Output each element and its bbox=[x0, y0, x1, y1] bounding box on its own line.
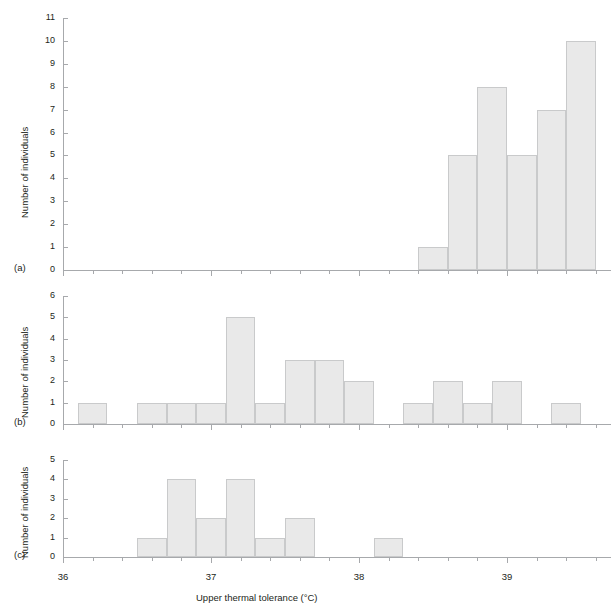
y-axis-tick bbox=[64, 499, 68, 500]
histogram-bar bbox=[285, 518, 315, 557]
x-axis-tick-label: 38 bbox=[347, 572, 371, 582]
x-axis-minor-tick bbox=[537, 425, 538, 428]
y-axis-tick-label: 5 bbox=[33, 455, 55, 464]
x-axis-minor-tick bbox=[566, 271, 567, 274]
x-axis-minor-tick bbox=[270, 558, 271, 561]
histogram-bar bbox=[137, 538, 167, 557]
histogram-bar bbox=[374, 538, 404, 557]
x-axis-minor-tick bbox=[93, 558, 94, 561]
histogram-bar bbox=[551, 403, 581, 424]
x-axis-major-tick bbox=[507, 425, 508, 430]
y-axis-tick-label: 3 bbox=[33, 494, 55, 503]
x-axis-minor-tick bbox=[566, 425, 567, 428]
y-axis-tick bbox=[64, 518, 68, 519]
histogram-bar bbox=[255, 538, 285, 557]
histogram-bar bbox=[463, 403, 493, 424]
histogram-bar bbox=[226, 479, 256, 557]
x-axis-title: Upper thermal tolerance (°C) bbox=[196, 592, 318, 603]
x-axis-minor-tick bbox=[300, 558, 301, 561]
histogram-bar bbox=[167, 479, 197, 557]
x-axis-minor-tick bbox=[477, 271, 478, 274]
x-axis-minor-tick bbox=[181, 558, 182, 561]
x-axis-minor-tick bbox=[122, 558, 123, 561]
y-axis-tick-label: 0 bbox=[33, 552, 55, 561]
y-axis-tick bbox=[64, 538, 68, 539]
x-axis-minor-tick bbox=[389, 558, 390, 561]
x-axis-major-tick bbox=[211, 558, 212, 563]
histogram-bar bbox=[537, 110, 567, 270]
x-axis-minor-tick bbox=[329, 558, 330, 561]
x-axis-major-tick bbox=[507, 271, 508, 276]
x-axis-major-tick bbox=[359, 558, 360, 563]
x-axis-line bbox=[63, 557, 611, 558]
histogram-bar bbox=[477, 87, 507, 270]
x-axis-tick-label: 37 bbox=[199, 572, 223, 582]
x-axis-minor-tick bbox=[596, 425, 597, 428]
y-axis-tick bbox=[64, 557, 68, 558]
x-axis-minor-tick bbox=[596, 558, 597, 561]
x-axis-minor-tick bbox=[448, 558, 449, 561]
x-axis-tick-label: 39 bbox=[495, 572, 519, 582]
histogram-bar bbox=[196, 518, 226, 557]
histogram-bar bbox=[566, 41, 596, 270]
x-axis-minor-tick bbox=[537, 558, 538, 561]
y-axis-tick-label: 4 bbox=[33, 474, 55, 483]
y-axis-tick bbox=[64, 460, 68, 461]
x-axis-minor-tick bbox=[477, 558, 478, 561]
x-axis-minor-tick bbox=[596, 271, 597, 274]
y-axis-line bbox=[63, 460, 64, 557]
x-axis-minor-tick bbox=[566, 558, 567, 561]
histogram-bar bbox=[507, 155, 537, 270]
y-axis-tick bbox=[64, 479, 68, 480]
x-axis-minor-tick bbox=[418, 558, 419, 561]
x-axis-minor-tick bbox=[241, 558, 242, 561]
x-axis-minor-tick bbox=[152, 558, 153, 561]
x-axis-major-tick bbox=[63, 558, 64, 563]
y-axis-tick-label: 2 bbox=[33, 513, 55, 522]
y-axis-tick-label: 1 bbox=[33, 533, 55, 542]
x-axis-tick-label: 36 bbox=[51, 572, 75, 582]
x-axis-minor-tick bbox=[477, 425, 478, 428]
x-axis-minor-tick bbox=[537, 271, 538, 274]
x-axis-major-tick bbox=[507, 558, 508, 563]
histogram-bar bbox=[492, 381, 522, 424]
